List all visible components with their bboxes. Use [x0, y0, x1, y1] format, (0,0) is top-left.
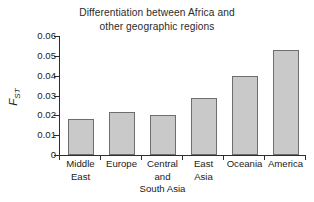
y-tick-label: 0.03	[37, 89, 56, 102]
bar	[191, 98, 217, 155]
x-axis-label-line: East	[56, 171, 105, 184]
y-tick-label: 0.06	[37, 29, 56, 42]
y-axis-title-subscript: ST	[13, 88, 22, 98]
y-axis-title-symbol: F	[7, 99, 19, 106]
x-axis-label-line: America	[261, 158, 310, 171]
y-tick-label: 0.01	[37, 128, 56, 141]
bar-series	[60, 36, 306, 155]
x-axis-label-line: Asia	[179, 171, 228, 184]
y-tick-label: 0.05	[37, 49, 56, 62]
x-axis-label: America	[261, 158, 310, 171]
bar	[232, 76, 258, 155]
bar	[150, 115, 176, 155]
x-axis-label-line: South Asia	[138, 183, 187, 196]
chart-title-line-1: Differentiation between Africa and	[0, 6, 314, 20]
bar	[273, 50, 299, 155]
bar	[109, 112, 135, 155]
y-tick-label: 0.04	[37, 69, 56, 82]
chart-figure: Differentiation between Africa and other…	[0, 0, 314, 202]
y-tick-label: 0.02	[37, 108, 56, 121]
y-axis-title: FST	[6, 86, 36, 108]
x-axis-labels: MiddleEastEuropeCentralandSouth AsiaEast…	[59, 158, 306, 202]
plot-area: 00.010.020.030.040.050.06	[59, 36, 305, 155]
bar	[68, 119, 94, 155]
